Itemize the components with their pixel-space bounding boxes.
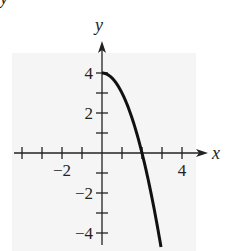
y-tick-label: 2 bbox=[85, 104, 94, 123]
x-tick-label: −2 bbox=[53, 161, 71, 180]
y-tick-label: −2 bbox=[75, 184, 93, 203]
y-tick-label: −4 bbox=[75, 224, 94, 243]
y-axis-label: y bbox=[93, 15, 103, 35]
corner-fragment: y bbox=[0, 0, 8, 8]
x-axis-label: x bbox=[211, 143, 220, 163]
y-tick-label: 4 bbox=[85, 64, 94, 83]
x-tick-label: 4 bbox=[178, 161, 187, 180]
plot-panel bbox=[12, 53, 196, 251]
function-graph: −2442−2−4 x y y bbox=[0, 0, 229, 251]
